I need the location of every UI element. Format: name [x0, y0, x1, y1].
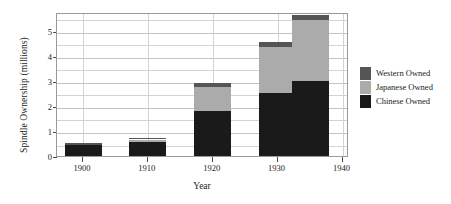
x-axis-title: Year: [56, 181, 348, 191]
bar-segment: [292, 15, 329, 20]
legend-swatch: [360, 67, 371, 80]
table-row: [259, 13, 296, 156]
legend-item: Chinese Owned: [360, 94, 448, 108]
legend-label: Western Owned: [376, 68, 430, 78]
x-tick-label: 1930: [257, 163, 297, 173]
x-tick-mark: [212, 157, 213, 162]
y-tick-label: 5: [40, 28, 52, 36]
bar-segment: [65, 145, 102, 156]
y-tick-label: 3: [40, 78, 52, 86]
table-row: [292, 13, 329, 156]
bar-segment: [292, 20, 329, 81]
table-row: [194, 13, 231, 156]
x-tick-label: 1940: [322, 163, 362, 173]
x-tick-mark: [82, 157, 83, 162]
bar-segment: [129, 138, 166, 140]
x-tick-mark: [147, 157, 148, 162]
bar-segment: [194, 87, 231, 111]
y-tick-mark: [53, 157, 57, 158]
y-tick-label: 2: [40, 103, 52, 111]
legend-swatch: [360, 95, 371, 108]
bar-segment: [194, 111, 231, 156]
y-tick-label: 0: [40, 153, 52, 161]
y-tick-label: 1: [40, 128, 52, 136]
bar-segment: [129, 140, 166, 142]
stacked-bar-chart-figure: Spindle Ownership (millions) Year 012345…: [0, 0, 451, 204]
legend-item: Western Owned: [360, 66, 448, 80]
bar-segment: [194, 83, 231, 87]
legend-item: Japanese Owned: [360, 80, 448, 94]
table-row: [129, 13, 166, 156]
legend-label: Chinese Owned: [376, 96, 430, 106]
legend-label: Japanese Owned: [376, 82, 433, 92]
bar-segment: [259, 42, 296, 47]
y-tick-label: 4: [40, 53, 52, 61]
x-tick-label: 1920: [192, 163, 232, 173]
x-tick-mark: [277, 157, 278, 162]
x-tick-label: 1900: [62, 163, 102, 173]
bar-segment: [259, 93, 296, 156]
x-tick-label: 1910: [127, 163, 167, 173]
x-tick-mark: [342, 157, 343, 162]
bar-segment: [259, 47, 296, 93]
plot-area: [56, 13, 348, 157]
legend-swatch: [360, 81, 371, 94]
bar-segment: [65, 143, 102, 145]
bar-segment: [292, 81, 329, 156]
gridline-vertical: [343, 14, 344, 156]
bar-segment: [129, 142, 166, 157]
chart-legend: Western OwnedJapanese OwnedChinese Owned: [360, 66, 448, 108]
table-row: [65, 13, 102, 156]
y-axis-title: Spindle Ownership (millions): [19, 15, 33, 175]
